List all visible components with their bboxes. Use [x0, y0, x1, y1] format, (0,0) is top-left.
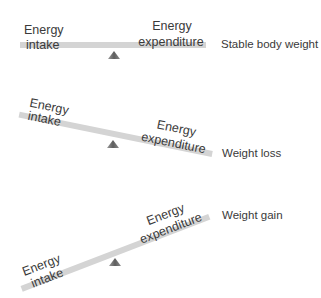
outcome-label: Weight gain: [222, 209, 283, 221]
fulcrum-icon: [107, 140, 119, 148]
right-label-line2: expenditure: [138, 35, 203, 49]
right-label-line1: Energy: [152, 19, 192, 33]
outcome-label: Stable body weight: [221, 38, 319, 50]
outcome-label: Weight loss: [222, 147, 281, 159]
scale-stable: Energy intake Energy expenditure Stable …: [20, 19, 319, 59]
left-label-line1: Energy: [24, 23, 64, 37]
scale-loss: Energy intake Energy expenditure Weight …: [18, 90, 282, 160]
fulcrum-icon: [108, 51, 120, 59]
fulcrum-icon: [109, 258, 121, 266]
scale-gain: Energy intake Energy expenditure Weight …: [13, 193, 283, 294]
energy-balance-diagram: Energy intake Energy expenditure Stable …: [0, 0, 321, 298]
left-label-line2: intake: [26, 38, 59, 52]
